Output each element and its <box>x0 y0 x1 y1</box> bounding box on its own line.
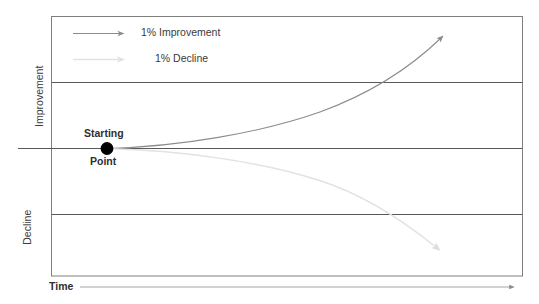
chart-container: 1% Improvement 1% Decline Improvement De… <box>0 0 539 304</box>
legend-label-decline: 1% Decline <box>155 53 208 64</box>
x-axis-label-time: Time <box>49 281 73 292</box>
y-axis-label-decline: Decline <box>22 196 33 258</box>
starting-point-marker <box>101 142 114 155</box>
starting-point-label-line2: Point <box>90 156 116 167</box>
legend-label-improvement: 1% Improvement <box>141 27 220 38</box>
starting-point-label-line1: Starting <box>84 128 124 139</box>
plot-area-frame <box>52 17 523 277</box>
chart-canvas <box>0 0 539 304</box>
y-axis-label-improvement: Improvement <box>34 54 45 138</box>
